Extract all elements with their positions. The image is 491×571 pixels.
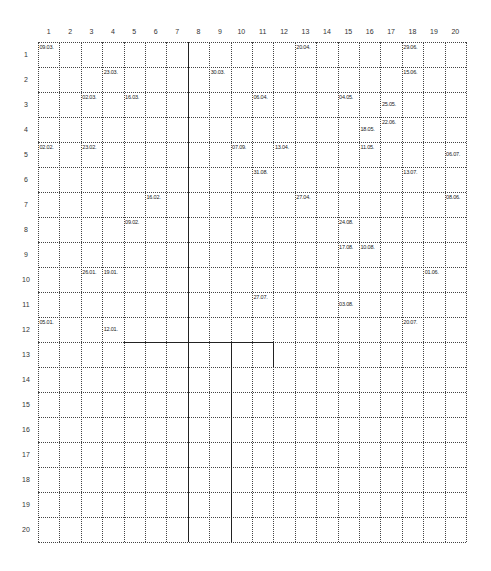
date-entry: 05.01. [40, 319, 54, 325]
column-label: 5 [124, 28, 145, 35]
date-entry: 09.02. [125, 219, 139, 225]
grid-horizontal-line [38, 417, 466, 418]
date-entry: 20.04. [296, 44, 310, 50]
date-entry: 25.05. [382, 101, 396, 107]
date-entry: 17.08. [339, 244, 353, 250]
grid-horizontal-line [38, 467, 466, 468]
grid-horizontal-line [38, 542, 466, 543]
grid-horizontal-line [38, 392, 466, 393]
date-entry: 12.01. [104, 326, 118, 332]
column-label: 16 [359, 28, 380, 35]
date-entry: 08.06. [446, 194, 460, 200]
date-entry: 13.04. [275, 144, 289, 150]
date-entry: 30.03. [211, 69, 225, 75]
date-entry: 09.03. [40, 44, 54, 50]
grid-horizontal-line [38, 117, 466, 118]
date-entry: 29.06. [403, 44, 417, 50]
grid-horizontal-line [38, 217, 466, 218]
row-label: 3 [18, 92, 34, 117]
column-label: 2 [59, 28, 80, 35]
date-entry: 11.05. [361, 144, 375, 150]
row-label: 5 [18, 142, 34, 167]
date-entry: 19.01. [104, 269, 118, 275]
column-label: 7 [166, 28, 187, 35]
date-entry: 24.08. [339, 219, 353, 225]
grid-vertical-line [466, 42, 467, 542]
column-label: 17 [380, 28, 401, 35]
row-label: 9 [18, 242, 34, 267]
grid-horizontal-line [38, 42, 466, 43]
column-label: 1 [38, 28, 59, 35]
date-entry: 27.07. [254, 294, 268, 300]
column-label: 14 [316, 28, 337, 35]
column-label: 13 [295, 28, 316, 35]
column-label: 11 [252, 28, 273, 35]
column-label: 9 [209, 28, 230, 35]
date-entry: 23.03. [104, 69, 118, 75]
date-entry: 13.07. [403, 169, 417, 175]
row-label: 4 [18, 117, 34, 142]
column-label: 4 [102, 28, 123, 35]
row-label: 15 [18, 392, 34, 417]
grid-horizontal-line [38, 92, 466, 93]
grid-horizontal-line [38, 67, 466, 68]
date-grid: 09.03.20.04.29.06.23.03.30.03.15.06.02.0… [38, 42, 466, 542]
date-entry: 10.08. [361, 244, 375, 250]
date-entry: 15.06. [403, 69, 417, 75]
grid-horizontal-line [38, 292, 466, 293]
row-label: 8 [18, 217, 34, 242]
grid-horizontal-line [38, 242, 466, 243]
grid-horizontal-line [38, 142, 466, 143]
date-entry: 16.02. [147, 194, 161, 200]
grid-horizontal-line [38, 267, 466, 268]
column-label: 8 [188, 28, 209, 35]
solid-vertical-segment [231, 342, 232, 542]
column-label: 12 [273, 28, 294, 35]
row-label: 17 [18, 442, 34, 467]
date-entry: 06.04. [254, 94, 268, 100]
row-label: 10 [18, 267, 34, 292]
date-entry: 06.07. [446, 151, 460, 157]
column-label: 10 [231, 28, 252, 35]
date-entry: 22.06. [382, 119, 396, 125]
solid-horizontal-segment [124, 342, 274, 343]
grid-horizontal-line [38, 517, 466, 518]
row-label: 18 [18, 467, 34, 492]
grid-horizontal-line [38, 492, 466, 493]
row-label: 19 [18, 492, 34, 517]
date-entry: 16.03. [125, 94, 139, 100]
date-entry: 23.02. [82, 144, 96, 150]
date-entry: 31.08. [254, 169, 268, 175]
grid-horizontal-line [38, 192, 466, 193]
row-label: 6 [18, 167, 34, 192]
row-label: 1 [18, 42, 34, 67]
row-label: 20 [18, 517, 34, 542]
row-label: 11 [18, 292, 34, 317]
date-entry: 03.08. [339, 301, 353, 307]
date-entry: 04.05. [339, 94, 353, 100]
row-label: 7 [18, 192, 34, 217]
date-entry: 18.05. [361, 126, 375, 132]
grid-horizontal-line [38, 367, 466, 368]
grid-horizontal-line [38, 442, 466, 443]
column-label: 20 [445, 28, 466, 35]
column-label: 6 [145, 28, 166, 35]
date-entry: 26.01. [82, 269, 96, 275]
date-entry: 01.06. [425, 269, 439, 275]
date-entry: 02.02. [40, 144, 54, 150]
grid-horizontal-line [38, 167, 466, 168]
column-label: 3 [81, 28, 102, 35]
row-label: 12 [18, 317, 34, 342]
row-label: 14 [18, 367, 34, 392]
grid-horizontal-line [38, 317, 466, 318]
column-label: 19 [423, 28, 444, 35]
date-entry: 07.09. [232, 144, 246, 150]
date-entry: 27.04. [296, 194, 310, 200]
row-label: 16 [18, 417, 34, 442]
date-entry: 02.03. [82, 94, 96, 100]
solid-vertical-segment [273, 342, 274, 367]
date-entry: 20.07. [403, 319, 417, 325]
row-label: 13 [18, 342, 34, 367]
column-label: 15 [338, 28, 359, 35]
column-label: 18 [402, 28, 423, 35]
